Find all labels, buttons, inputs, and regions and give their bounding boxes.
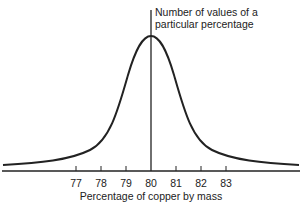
tick-label: 78 <box>95 177 107 189</box>
y-axis-label-line2: particular percentage <box>155 18 254 30</box>
tick-label: 79 <box>120 177 132 189</box>
tick-label: 83 <box>220 177 232 189</box>
tick-label: 80 <box>145 177 157 189</box>
y-axis-label-line1: Number of values of a <box>155 6 258 18</box>
tick-label: 81 <box>170 177 182 189</box>
tick-label: 82 <box>195 177 207 189</box>
tick-label: 77 <box>70 177 82 189</box>
x-axis-label: Percentage of copper by mass <box>80 190 222 202</box>
distribution-chart: 77 78 79 80 81 82 83 Percentage of coppe… <box>0 0 302 202</box>
